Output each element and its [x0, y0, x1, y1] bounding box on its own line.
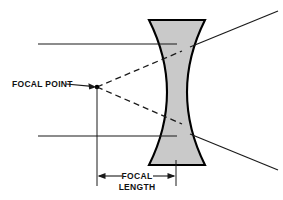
figure-background	[0, 0, 283, 200]
lens-diagram-figure: FOCAL POINT FOCAL LENGTH	[0, 0, 283, 200]
diagram-canvas: FOCAL POINT FOCAL LENGTH	[0, 0, 283, 200]
focal-length-label-line1: FOCAL	[122, 171, 153, 181]
focal-point-label: FOCAL POINT	[12, 79, 73, 89]
focal-length-label-line2: LENGTH	[119, 182, 156, 192]
